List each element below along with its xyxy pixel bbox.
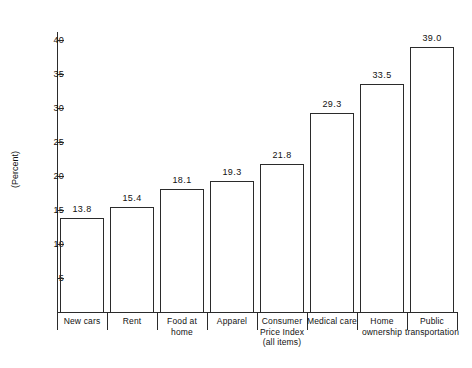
y-axis-title: (Percent) [11,142,20,198]
bar-value-label: 33.5 [352,71,412,80]
y-tick-25: 25 [0,138,64,147]
category-label-line: Price Index [251,327,313,338]
y-tick-mark [58,142,64,143]
y-tick-30: 30 [0,104,64,113]
bar-value-label: 21.8 [252,151,312,160]
bar[interactable] [310,113,354,312]
bar[interactable] [60,218,104,312]
category-label-line: Public [401,316,463,327]
category-label-line: home [151,327,213,338]
y-tick-5: 5 [0,274,64,283]
category-label: Publictransportation [401,316,463,337]
y-tick-mark [58,40,64,41]
bar-value-label: 15.4 [102,194,162,203]
bar[interactable] [410,47,454,312]
y-tick-40: 40 [0,36,64,45]
y-tick-mark [58,108,64,109]
bar-value-label: 29.3 [302,100,362,109]
y-tick-mark [58,176,64,177]
category-label-line: (all items) [251,337,313,348]
bar[interactable] [110,207,154,312]
bar-value-label: 39.0 [402,34,462,43]
category-label-line: transportation [401,327,463,338]
bar-value-label: 19.3 [202,168,262,177]
y-tick-35: 35 [0,70,64,79]
y-tick-mark [58,74,64,75]
bar[interactable] [360,84,404,312]
bar[interactable] [160,189,204,312]
footer-cut-text [6,358,236,366]
bar[interactable] [210,181,254,312]
y-tick-20: 20 [0,172,64,181]
bar[interactable] [260,164,304,312]
bar-chart: (Percent) 510152025303540 13.815.418.119… [0,0,472,368]
bar-value-label: 18.1 [152,176,212,185]
y-tick-10: 10 [0,240,64,249]
bar-value-label: 13.8 [52,205,112,214]
